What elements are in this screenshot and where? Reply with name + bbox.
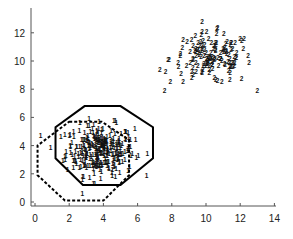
data-point: 1 (91, 151, 95, 158)
data-point: 1 (99, 162, 103, 169)
data-point: 2 (169, 78, 173, 85)
y-tick-label: 12 (14, 28, 26, 39)
data-point: 1 (84, 152, 88, 159)
data-point: 2 (158, 66, 162, 73)
y-tick-label: 4 (19, 141, 25, 152)
data-points: 1111111111111111111111111111111111111111… (39, 18, 260, 196)
data-point: 2 (200, 18, 204, 25)
data-point: 2 (200, 28, 204, 35)
data-point: 2 (204, 62, 208, 69)
data-point: 1 (145, 172, 149, 179)
data-point: 1 (86, 132, 90, 139)
data-point: 1 (82, 173, 86, 180)
data-point: 2 (190, 74, 194, 81)
data-point: 1 (83, 129, 87, 136)
data-point: 2 (203, 41, 207, 48)
x-tick-label: 0 (32, 213, 38, 224)
y-tick-label: 0 (19, 197, 25, 208)
data-point: 2 (194, 59, 198, 66)
data-point: 2 (181, 36, 185, 43)
data-point: 2 (181, 78, 185, 85)
data-point: 2 (235, 49, 239, 56)
x-tick-label: 6 (135, 213, 141, 224)
x-tick-label: 10 (200, 213, 212, 224)
data-point: 2 (228, 76, 232, 83)
data-point: 1 (68, 131, 72, 138)
data-point: 2 (163, 87, 167, 94)
data-point: 2 (166, 56, 170, 63)
data-point: 1 (99, 175, 103, 182)
data-point: 1 (134, 136, 138, 143)
data-point: 1 (118, 158, 122, 165)
x-tick-label: 14 (269, 213, 281, 224)
data-point: 2 (217, 62, 221, 69)
data-point: 2 (191, 64, 195, 71)
data-point: 1 (90, 125, 94, 132)
scatter-chart: 02468101214 024681012 111111111111111111… (0, 0, 293, 239)
data-point: 2 (214, 47, 218, 54)
data-point: 1 (49, 144, 53, 151)
data-point: 1 (64, 152, 68, 159)
data-point: 2 (220, 78, 224, 85)
data-point: 2 (228, 59, 232, 66)
data-point: 1 (72, 128, 76, 135)
data-point: 1 (59, 133, 63, 140)
data-point: 1 (114, 119, 118, 126)
data-point: 1 (39, 132, 43, 139)
data-point: 2 (188, 48, 192, 55)
y-tick-label: 10 (14, 56, 26, 67)
data-point: 1 (90, 159, 94, 166)
data-point: 2 (210, 53, 214, 60)
data-point: 1 (107, 158, 111, 165)
data-point: 1 (104, 136, 108, 143)
data-point: 2 (229, 46, 233, 53)
x-tick-label: 8 (169, 213, 175, 224)
data-point: 2 (247, 59, 251, 66)
data-point: 1 (81, 190, 85, 197)
data-point: 2 (228, 69, 232, 76)
data-point: 2 (196, 39, 200, 46)
data-point: 2 (233, 59, 237, 66)
data-point: 1 (87, 122, 91, 129)
data-point: 1 (115, 149, 119, 156)
data-point: 2 (200, 69, 204, 76)
data-point: 2 (178, 50, 182, 57)
x-tick-label: 12 (235, 213, 247, 224)
data-point: 2 (205, 28, 209, 35)
data-point: 2 (242, 45, 246, 52)
data-point: 2 (240, 37, 244, 44)
x-tick-label: 2 (66, 213, 72, 224)
data-point: 1 (83, 159, 87, 166)
data-point: 2 (177, 63, 181, 70)
data-point: 1 (146, 150, 150, 157)
data-point: 2 (215, 30, 219, 37)
data-point: 2 (255, 87, 259, 94)
data-point: 1 (118, 169, 122, 176)
data-point: 2 (216, 24, 220, 31)
data-point: 1 (133, 125, 137, 132)
data-point: 2 (205, 55, 209, 62)
data-point: 2 (219, 49, 223, 56)
data-point: 1 (78, 127, 82, 134)
data-point: 2 (179, 70, 183, 77)
data-point: 1 (114, 141, 118, 148)
data-point: 1 (103, 159, 107, 166)
data-point: 1 (81, 141, 85, 148)
data-point: 1 (110, 169, 114, 176)
data-point: 2 (194, 68, 198, 75)
data-point: 1 (105, 152, 109, 159)
x-tick-label: 4 (101, 213, 107, 224)
data-point: 1 (96, 161, 100, 168)
y-tick-label: 6 (19, 112, 25, 123)
y-tick-label: 8 (19, 84, 25, 95)
data-point: 2 (225, 38, 229, 45)
data-point: 2 (240, 75, 244, 82)
data-point: 2 (193, 32, 197, 39)
data-point: 2 (214, 39, 218, 46)
data-point: 1 (99, 140, 103, 147)
data-point: 1 (114, 165, 118, 172)
y-tick-label: 2 (19, 169, 25, 180)
data-point: 1 (137, 152, 141, 159)
data-point: 1 (121, 150, 125, 157)
data-point: 1 (101, 125, 105, 132)
